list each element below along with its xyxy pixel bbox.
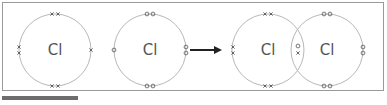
reaction-arrow-icon [190, 46, 222, 54]
reactant-atom-2: Cl [112, 12, 188, 88]
atom-symbol-right: Cl [320, 41, 335, 59]
chlorine-bonding-diagram: Cl Cl Cl Cl [0, 0, 387, 105]
reactant-atom-1: Cl [17, 12, 92, 87]
shared-electron-pair [296, 44, 300, 55]
product-molecule: Cl Cl [231, 12, 365, 88]
atom-symbol: Cl [143, 41, 158, 59]
atom-symbol: Cl [48, 41, 63, 59]
atom-symbol-left: Cl [261, 41, 276, 59]
